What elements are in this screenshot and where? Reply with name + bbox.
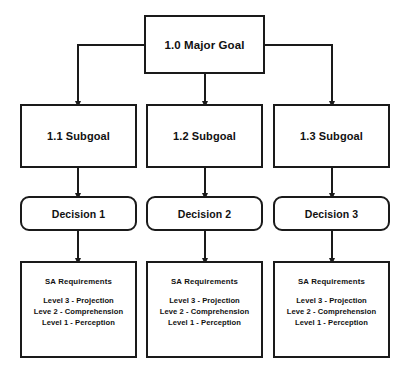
sa-level-1: Level 1 - Perception [168, 318, 241, 329]
node-subgoal-2[interactable]: 1.2 Subgoal [146, 104, 263, 168]
sa-requirements-2-levels: Level 3 - Projection Leve 2 - Comprehens… [160, 296, 249, 328]
node-major-goal[interactable]: 1.0 Major Goal [144, 15, 265, 74]
decision-3-label: Decision 3 [305, 208, 359, 220]
node-decision-2[interactable]: Decision 2 [146, 196, 263, 231]
sa-requirements-1-levels: Level 3 - Projection Leve 2 - Comprehens… [34, 296, 123, 328]
subgoal-3-label: 1.3 Subgoal [300, 130, 363, 142]
sa-level-1: Level 1 - Perception [295, 318, 368, 329]
connector-goal-to-subgoal-1 [78, 45, 144, 104]
sa-requirements-3-title: SA Requirements [298, 276, 365, 287]
node-subgoal-1[interactable]: 1.1 Subgoal [20, 104, 137, 168]
major-goal-label: 1.0 Major Goal [164, 39, 244, 51]
sa-level-2: Leve 2 - Comprehension [34, 307, 123, 318]
sa-level-2: Leve 2 - Comprehension [287, 307, 376, 318]
connector-goal-to-subgoal-3 [265, 45, 332, 104]
sa-level-1: Level 1 - Perception [42, 318, 115, 329]
node-subgoal-3[interactable]: 1.3 Subgoal [273, 104, 390, 168]
sa-requirements-2-title: SA Requirements [171, 276, 238, 287]
sa-requirements-1-title: SA Requirements [45, 276, 112, 287]
node-sa-requirements-1[interactable]: SA Requirements Level 3 - Projection Lev… [20, 261, 137, 358]
subgoal-1-label: 1.1 Subgoal [47, 130, 110, 142]
sa-level-3: Level 3 - Projection [43, 296, 114, 307]
node-decision-1[interactable]: Decision 1 [20, 196, 137, 231]
node-decision-3[interactable]: Decision 3 [273, 196, 390, 231]
sa-level-3: Level 3 - Projection [296, 296, 367, 307]
decision-1-label: Decision 1 [52, 208, 106, 220]
decision-2-label: Decision 2 [178, 208, 232, 220]
diagram-canvas: 1.0 Major Goal 1.1 Subgoal 1.2 Subgoal 1… [0, 0, 406, 375]
sa-requirements-3-levels: Level 3 - Projection Leve 2 - Comprehens… [287, 296, 376, 328]
node-sa-requirements-3[interactable]: SA Requirements Level 3 - Projection Lev… [273, 261, 390, 358]
sa-level-2: Leve 2 - Comprehension [160, 307, 249, 318]
sa-level-3: Level 3 - Projection [169, 296, 240, 307]
node-sa-requirements-2[interactable]: SA Requirements Level 3 - Projection Lev… [146, 261, 263, 358]
subgoal-2-label: 1.2 Subgoal [173, 130, 236, 142]
